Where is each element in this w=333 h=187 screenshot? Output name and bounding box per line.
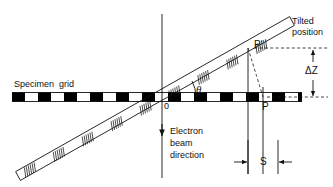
rod-hatch-stroke [53,152,54,162]
rod-hatch-stroke [24,167,25,177]
rod-hatch-stroke [121,116,122,126]
rod-hatch-stroke [34,162,35,172]
delta-z-label: ΔZ [305,66,318,76]
rod-hatch-stroke [30,164,31,174]
grid-segment [12,93,25,102]
rod-hatch-stroke [111,121,112,131]
diagram-svg [0,0,333,187]
point-p-prime-label: P' [254,40,263,50]
rod-hatch-stroke [231,58,232,68]
grid-segment [90,93,103,102]
specimen-grid-label: Specimen grid [14,79,74,89]
grid-segment [38,93,51,102]
rod-hatch-stroke [140,106,141,116]
rod-hatch-stroke [144,104,145,114]
rod-hatch-stroke [229,59,230,69]
rod-hatch-stroke [142,105,143,115]
tilted-position-label-line2: position [292,27,323,37]
rod-hatch-stroke [236,55,237,65]
theta-angle-label: θ [196,84,201,94]
rod-hatch-stroke [117,118,118,128]
tilt-trajectory-dashed-arc [248,48,263,97]
rod-hatch-stroke [32,163,33,173]
origin-label: 0 [164,101,169,111]
rod-hatch-stroke [119,117,120,127]
rod-hatch-stroke [150,101,151,111]
grid-segment [116,93,129,102]
rod-hatch-stroke [57,150,58,160]
electron-beam-label-line3: direction [170,150,204,160]
electron-beam-label-line1: Electron [170,126,203,136]
rod-hatch-bands [24,39,267,177]
electron-beam-label-line2: beam [170,138,193,148]
rod-hatch-stroke [148,102,149,112]
rod-hatch-stroke [28,165,29,175]
rod-hatch-stroke [233,57,234,67]
point-p-label: P [262,102,269,112]
grid-segment [220,93,233,102]
rod-hatch-stroke [63,147,64,157]
rod-hatch-stroke [26,166,27,176]
rod-hatch-stroke [55,151,56,161]
shift-s-label: S [260,157,267,167]
rod-hatch-stroke [113,120,114,130]
diagram-canvas: Specimen grid Tilted position Electron b… [0,0,333,187]
tilted-position-label-line1: Tilted [292,16,314,26]
rod-hatch-stroke [59,149,60,159]
rod-hatch-stroke [235,56,236,66]
rod-hatch-stroke [227,60,228,70]
grid-segment [64,93,77,102]
rod-hatch-stroke [115,119,116,129]
specimen-grid-segments [12,93,302,102]
rod-hatch-stroke [61,148,62,158]
rod-hatch-stroke [146,103,147,113]
